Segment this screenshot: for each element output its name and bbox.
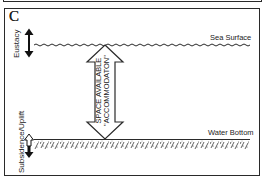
water-bottom-sediment [34,140,250,151]
eustacy-double-arrow-icon [25,29,34,58]
eustacy-label: Eustacy [12,30,21,58]
accommodation-label-line2: "ACCOMMODATON" [103,55,111,126]
sea-surface-label: Sea Surface [210,33,251,42]
accommodation-label: SPACE AVAILABLE "ACCOMMODATON" [95,55,111,126]
water-bottom-label: Water Bottom [208,128,254,137]
subsidence-uplift-label: Subsidence/Uplift [17,111,26,173]
sea-surface-line [34,44,250,46]
panel-label: C [9,8,19,25]
diagram-graphics [0,0,265,184]
